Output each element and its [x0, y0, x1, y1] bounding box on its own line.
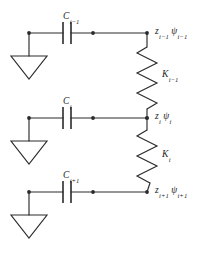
- branch-lower: [11, 181, 149, 238]
- circuit-schematic-canvas: [0, 0, 205, 253]
- spring-lower: [137, 118, 157, 192]
- spring-label-upper: Ki−1: [162, 70, 178, 80]
- capacitor-label-lower: Ci+1: [63, 171, 79, 181]
- spring-zigzag-icon: [137, 130, 157, 183]
- spring-upper: [137, 33, 157, 118]
- junction-dot-icon: [91, 31, 95, 35]
- node-dot-lower: [145, 190, 149, 194]
- junction-dot-icon: [91, 116, 95, 120]
- branch-middle: [11, 107, 149, 164]
- capacitor-label-middle: Ci: [63, 97, 71, 107]
- node-label-middle: ziψi: [155, 112, 171, 122]
- ground-triangle-icon: [11, 215, 47, 238]
- spring-zigzag-icon: [137, 47, 157, 109]
- node-label-upper: zi−1ψi−1: [155, 27, 187, 37]
- circuit-diagram: Ci−1 Ci Ci+1 Ki−1 Ki zi−1ψi−1 ziψi zi+1ψ…: [0, 0, 205, 253]
- capacitor-label-upper: Ci−1: [63, 12, 79, 22]
- ground-triangle-icon: [11, 141, 47, 164]
- spring-label-lower: Ki: [162, 150, 170, 160]
- node-label-lower: zi+1ψi+1: [155, 186, 187, 196]
- branch-upper: [11, 22, 149, 79]
- ground-triangle-icon: [11, 56, 47, 79]
- junction-dot-icon: [91, 190, 95, 194]
